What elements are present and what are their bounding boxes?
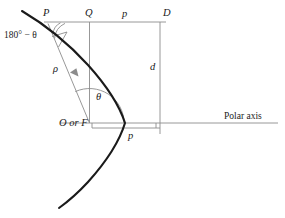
label-point-q: Q (85, 8, 93, 19)
label-point-p: P (43, 8, 49, 19)
label-angle-theta: θ (96, 92, 101, 103)
label-origin-focus: O or F (59, 118, 88, 129)
label-vertical-d: d (150, 62, 155, 73)
bracket-segment-p (92, 123, 160, 128)
label-polar-axis: Polar axis (224, 112, 262, 122)
label-top-segment-p: p (122, 9, 127, 20)
polar-conic-figure: P Q D p d ρ θ 180° − θ O or F p Polar ax… (0, 0, 285, 218)
rho-arrowhead (70, 68, 79, 76)
label-radius-rho: ρ (53, 64, 58, 75)
label-supplement-angle: 180° − θ (4, 31, 37, 41)
label-bottom-segment-p: p (128, 131, 133, 142)
conic-curve (22, 11, 125, 208)
label-point-d: D (163, 8, 171, 19)
diagram-canvas (0, 0, 285, 218)
